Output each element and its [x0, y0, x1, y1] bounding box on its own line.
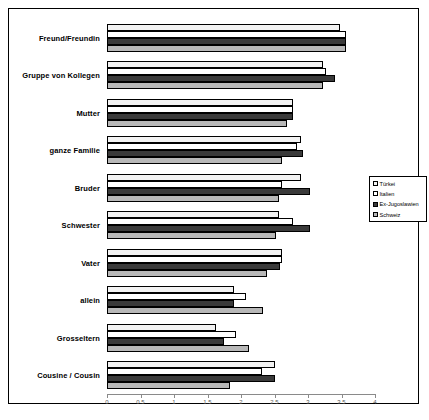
legend-swatch-icon [373, 191, 378, 196]
category-label: Grosseltern [57, 333, 107, 342]
category-group: Vater [107, 249, 375, 277]
legend-item: Ex-Jugoslawien [373, 201, 424, 208]
category-label: Vater [81, 258, 107, 267]
bar [107, 82, 323, 89]
category-label: Freund/Freundin [39, 33, 107, 42]
bar [107, 113, 293, 120]
category-label: Bruder [75, 183, 107, 192]
legend-item: Schweiz [373, 211, 424, 218]
category-group: allein [107, 286, 375, 314]
category-label: ganze Familie [50, 146, 107, 155]
bar [107, 157, 282, 164]
bar [107, 345, 249, 352]
bar [107, 225, 310, 232]
category-label: Cousine / Cousin [37, 371, 107, 380]
category-group: Cousine / Cousin [107, 361, 375, 389]
bar [107, 143, 297, 150]
bar [107, 331, 236, 338]
chart-frame: Freund/FreundinGruppe von KollegenMutter… [8, 8, 419, 404]
bar [107, 174, 301, 181]
bar [107, 256, 282, 263]
category-group: Schwester [107, 211, 375, 239]
axis-tick [208, 394, 209, 398]
bar [107, 188, 310, 195]
axis-tick [107, 394, 108, 398]
bar [107, 361, 275, 368]
bar [107, 249, 282, 256]
category-group: ganze Familie [107, 136, 375, 164]
category-group: Bruder [107, 174, 375, 202]
legend-item: Italien [373, 190, 424, 197]
bar [107, 150, 303, 157]
axis-tick-label: 1.5 [203, 399, 211, 405]
bar [107, 293, 246, 300]
bar [107, 61, 323, 68]
bar [107, 195, 279, 202]
axis-tick [141, 394, 142, 398]
axis-tick-label: 2.5 [270, 399, 278, 405]
category-label: Schwester [62, 221, 107, 230]
axis-tick [375, 394, 376, 398]
bar [107, 300, 234, 307]
category-group: Freund/Freundin [107, 24, 375, 52]
bar [107, 286, 234, 293]
bar [107, 211, 279, 218]
bar [107, 263, 280, 270]
axis-tick-label: 3 [306, 399, 309, 405]
x-axis: 00.511.522.533.54 [107, 394, 375, 395]
axis-tick [275, 394, 276, 398]
legend-swatch-icon [373, 212, 378, 217]
bar [107, 307, 263, 314]
bar [107, 324, 216, 331]
axis-tick-label: 1 [172, 399, 175, 405]
plot-area: Freund/FreundinGruppe von KollegenMutter… [107, 19, 375, 394]
axis-tick-label: 3.5 [337, 399, 345, 405]
axis-tick [174, 394, 175, 398]
legend-label: Italien [380, 191, 395, 197]
axis-tick-label: 2 [239, 399, 242, 405]
category-group: Mutter [107, 99, 375, 127]
axis-tick [342, 394, 343, 398]
category-label: Mutter [76, 108, 107, 117]
bar [107, 106, 293, 113]
bar [107, 31, 346, 38]
bar [107, 375, 275, 382]
bar [107, 99, 293, 106]
bar [107, 38, 346, 45]
axis-tick [308, 394, 309, 398]
axis-tick-label: 0.5 [136, 399, 144, 405]
bar [107, 68, 326, 75]
category-label: Gruppe von Kollegen [22, 71, 107, 80]
legend-swatch-icon [373, 181, 378, 186]
legend-swatch-icon [373, 202, 378, 207]
legend-label: Türkei [380, 181, 396, 187]
axis-tick-label: 0 [105, 399, 108, 405]
bar [107, 338, 224, 345]
category-label: allein [80, 296, 107, 305]
legend-label: Ex-Jugoslawien [380, 201, 419, 207]
bar [107, 120, 287, 127]
category-group: Gruppe von Kollegen [107, 61, 375, 89]
bar [107, 75, 335, 82]
axis-tick [241, 394, 242, 398]
bar [107, 368, 262, 375]
chart-legend: TürkeiItalienEx-JugoslawienSchweiz [369, 176, 427, 222]
bar [107, 218, 293, 225]
bar [107, 181, 282, 188]
bar [107, 45, 346, 52]
bar [107, 24, 340, 31]
bar [107, 136, 301, 143]
bar [107, 270, 267, 277]
bar [107, 382, 230, 389]
axis-tick-label: 4 [373, 399, 376, 405]
bar [107, 232, 276, 239]
category-group: Grosseltern [107, 324, 375, 352]
legend-label: Schweiz [380, 212, 401, 218]
legend-item: Türkei [373, 180, 424, 187]
